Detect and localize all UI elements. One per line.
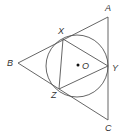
label-b: B: [7, 58, 13, 68]
geometry-diagram: A B C X Y Z O: [0, 0, 128, 134]
label-c: C: [105, 123, 112, 133]
label-x: X: [57, 26, 65, 36]
label-a: A: [104, 3, 111, 13]
label-o: O: [82, 61, 89, 71]
center-point-o: [77, 64, 80, 67]
label-y: Y: [112, 63, 119, 73]
label-z: Z: [50, 90, 57, 100]
